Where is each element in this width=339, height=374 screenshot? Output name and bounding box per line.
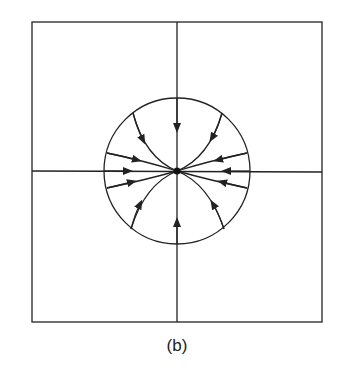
equilibrium-node [174, 168, 181, 175]
trajectory-lower-left-steep [131, 171, 177, 229]
trajectory-upper-right-steep [177, 113, 222, 171]
figure-caption: (b) [0, 336, 339, 356]
phase-portrait-diagram [0, 0, 339, 374]
trajectory-upper-left-steep [133, 113, 177, 171]
trajectory-lower-right-steep [177, 171, 224, 229]
